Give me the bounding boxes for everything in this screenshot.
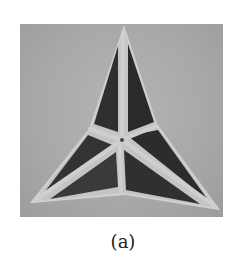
panel-top-left <box>94 46 118 132</box>
origami-star-image <box>20 24 223 217</box>
figure-photo <box>20 24 223 217</box>
figure-caption: (a) <box>0 231 246 252</box>
center-joint <box>120 138 124 142</box>
panel-top-right <box>128 44 154 132</box>
